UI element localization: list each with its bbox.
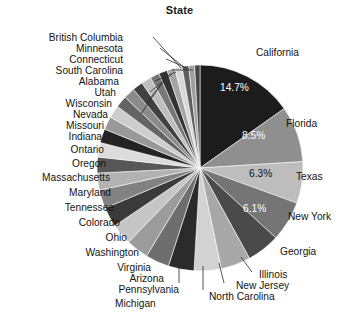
slice-label-virginia: Virginia (117, 262, 151, 273)
slice-label-pennsylvania: Pennsylvania (118, 284, 179, 295)
slice-label-arizona: Arizona (129, 273, 164, 284)
slice-label-california: California (256, 47, 299, 58)
slice-label-utah: Utah (94, 87, 116, 98)
slice-label-colorado: Colorado (79, 217, 120, 228)
slice-percent-florida: 8.5% (242, 130, 265, 141)
slice-label-maryland: Maryland (69, 187, 111, 198)
slice-label-connecticut: Connecticut (69, 54, 123, 65)
pie-chart: State British Columbia Minnesota Connect… (0, 0, 359, 319)
slice-label-ohio: Ohio (105, 232, 127, 243)
slice-label-massachusetts: Massachusetts (42, 172, 110, 183)
slice-label-michigan: Michigan (115, 298, 156, 309)
slice-label-illinois: Illinois (259, 269, 287, 280)
slice-label-indiana: Indiana (69, 131, 102, 142)
slice-label-texas: Texas (296, 171, 323, 182)
slice-label-oregon: Oregon (72, 158, 106, 169)
slice-label-alabama: Alabama (79, 76, 119, 87)
slice-label-new-york: New York (288, 211, 331, 222)
slice-label-washington: Washington (86, 247, 139, 258)
slice-label-florida: Florida (286, 118, 317, 129)
slice-label-south-carolina: South Carolina (56, 65, 123, 76)
slice-label-tennessee: Tennessee (65, 202, 114, 213)
slice-label-new-jersey: New Jersey (236, 280, 289, 291)
slice-label-georgia: Georgia (280, 246, 316, 257)
slice-percent-california: 14.7% (220, 82, 249, 93)
slice-label-nevada: Nevada (73, 109, 108, 120)
slice-percent-texas: 6.3% (249, 168, 272, 179)
slice-label-north-carolina: North Carolina (209, 291, 275, 302)
slice-label-missouri: Missouri (66, 120, 104, 131)
slice-label-wisconsin: Wisconsin (66, 98, 112, 109)
slice-label-ontario: Ontario (71, 144, 104, 155)
slice-percent-new-york: 6.1% (243, 203, 266, 214)
leader-line (160, 48, 185, 68)
slice-label-british-columbia: British Columbia (49, 32, 123, 43)
pie-svg (0, 0, 359, 319)
slice-label-minnesota: Minnesota (76, 43, 123, 54)
